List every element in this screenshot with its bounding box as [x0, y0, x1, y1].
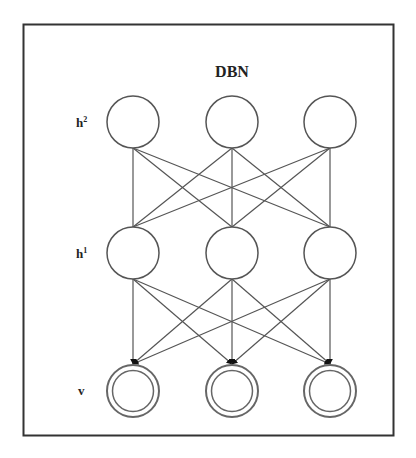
node-v-1 — [107, 365, 159, 417]
node-v-2 — [206, 365, 258, 417]
layer-v: v — [78, 365, 356, 417]
h1-v-connections — [133, 279, 330, 364]
layer-label-h1: h1 — [76, 246, 87, 261]
node-h2-1 — [107, 96, 159, 148]
node-h1-2 — [206, 227, 258, 279]
diagram-title: DBN — [215, 63, 249, 80]
node-h2-2 — [206, 96, 258, 148]
layer-label-v: v — [78, 383, 85, 398]
node-h1-1 — [107, 227, 159, 279]
layer-h2: h2 — [76, 96, 356, 148]
layer-h1: h1 — [76, 227, 356, 279]
dbn-diagram: DBN h2 h1 v — [0, 0, 416, 458]
node-h2-3 — [304, 96, 356, 148]
node-h1-3 — [304, 227, 356, 279]
layer-label-h2: h2 — [76, 115, 87, 130]
node-v-3 — [304, 365, 356, 417]
h2-h1-connections — [133, 148, 330, 227]
